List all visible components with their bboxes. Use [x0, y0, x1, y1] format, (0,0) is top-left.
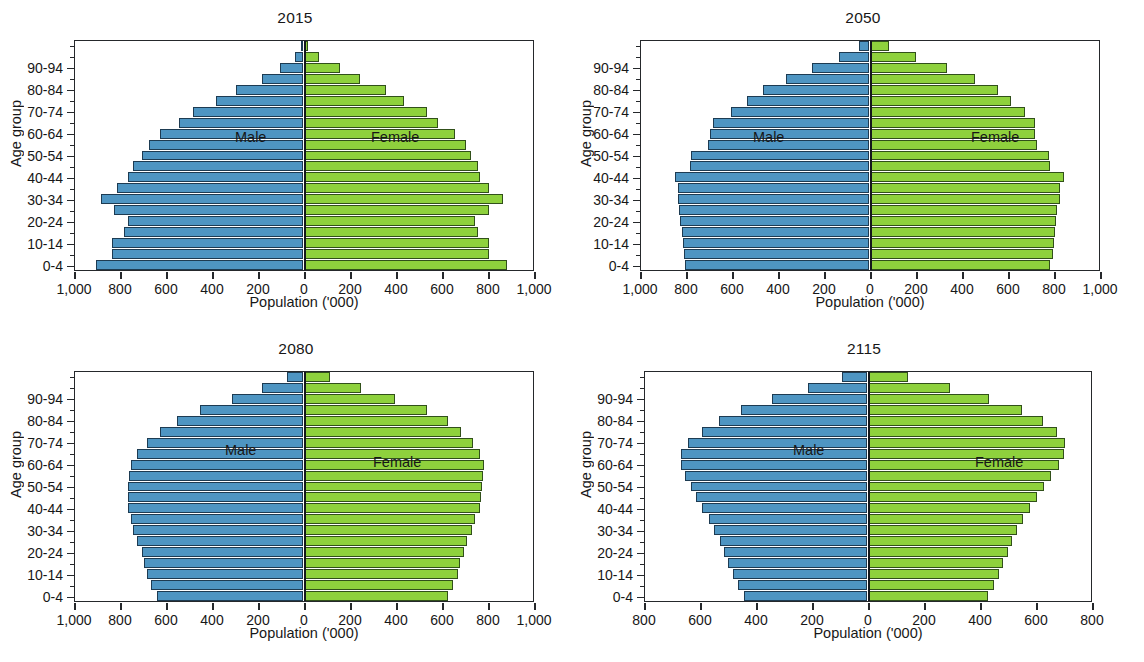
y-axis-tick	[640, 377, 645, 378]
female-bar	[305, 558, 460, 568]
y-axis-tick-label: 10-14	[572, 567, 633, 583]
y-axis-tick	[67, 399, 75, 400]
female-bar	[305, 372, 330, 382]
male-bar	[133, 161, 303, 171]
male-bar	[696, 492, 867, 502]
female-bar	[305, 405, 427, 415]
y-axis-tick-label: 40-44	[572, 501, 633, 517]
y-axis-tick-label: 20-24	[572, 214, 629, 230]
male-bar	[681, 449, 867, 459]
y-axis-tick	[637, 421, 645, 422]
female-bar	[305, 249, 489, 259]
y-axis-tick	[70, 167, 75, 168]
female-bar	[869, 536, 1012, 546]
male-bar	[301, 41, 303, 51]
x-axis-tick-label: 200	[338, 281, 361, 297]
y-axis-tick	[67, 200, 75, 201]
female-bar	[869, 438, 1065, 448]
male-bar	[131, 460, 304, 470]
x-axis-tick	[74, 603, 75, 610]
female-bar	[305, 216, 475, 226]
y-axis-tick	[633, 90, 641, 91]
male-bar	[733, 569, 867, 579]
female-bar	[305, 63, 340, 73]
y-axis-tick	[637, 509, 645, 510]
zero-axis-line	[868, 372, 870, 601]
female-bar	[305, 514, 475, 524]
x-axis-tick	[534, 603, 535, 610]
panel-title-2080: 2080	[0, 340, 572, 358]
male-bar	[702, 503, 867, 513]
y-axis-tick-label: 40-44	[572, 170, 629, 186]
x-axis-tick-label: 400	[200, 281, 223, 297]
male-bar	[262, 74, 303, 84]
female-bar	[869, 394, 989, 404]
x-axis-tick-label: 400	[950, 281, 973, 297]
male-bar	[147, 569, 303, 579]
x-axis-tick	[980, 603, 981, 610]
y-axis-tick	[640, 432, 645, 433]
x-axis-tick	[1036, 603, 1037, 610]
male-bar	[702, 427, 867, 437]
y-axis-tick-label: 90-94	[572, 60, 629, 76]
male-bar	[720, 536, 867, 546]
y-axis-tick	[67, 266, 75, 267]
y-axis-tick	[70, 145, 75, 146]
female-bar	[305, 569, 458, 579]
x-axis-tick-label: 200	[912, 612, 935, 628]
male-bar	[131, 514, 304, 524]
y-axis-tick	[633, 266, 641, 267]
y-axis-tick	[636, 79, 641, 80]
x-axis-tick	[74, 272, 75, 279]
y-axis-tick-label: 0-4	[572, 589, 633, 605]
y-axis-tick	[70, 255, 75, 256]
male-bar	[117, 183, 303, 193]
male-bar	[719, 416, 867, 426]
x-axis-tick	[258, 603, 259, 610]
female-bar	[871, 151, 1049, 161]
male-bar	[684, 249, 869, 259]
y-axis-tick-label: 20-24	[0, 545, 63, 561]
female-bar	[871, 107, 1025, 117]
y-axis-tick	[70, 123, 75, 124]
female-bar	[305, 161, 478, 171]
plot-area-2115: MaleFemale	[644, 371, 1092, 602]
panel-2050: 2050 Age group Population ('000) MaleFem…	[572, 0, 1144, 331]
female-bar	[305, 536, 467, 546]
male-bar	[683, 238, 869, 248]
y-axis-tick-label: 60-64	[0, 457, 63, 473]
x-axis-tick-label: 800	[476, 281, 499, 297]
female-bar	[305, 580, 453, 590]
x-axis-tick	[640, 272, 641, 279]
x-axis-tick	[778, 272, 779, 279]
female-bar	[871, 161, 1050, 171]
y-axis-tick	[67, 575, 75, 576]
y-axis-tick	[633, 178, 641, 179]
x-axis-tick	[700, 603, 701, 610]
panel-2015: 2015 Age group Population ('000) MaleFem…	[0, 0, 572, 331]
male-bar	[763, 85, 869, 95]
y-axis-tick	[633, 68, 641, 69]
female-bar	[871, 216, 1056, 226]
male-bar	[675, 172, 869, 182]
x-axis-tick	[442, 603, 443, 610]
y-axis-tick	[67, 597, 75, 598]
y-axis-tick	[637, 553, 645, 554]
female-bar	[305, 438, 473, 448]
y-axis-tick	[67, 531, 75, 532]
x-axis-tick	[120, 272, 121, 279]
male-series-label: Male	[235, 129, 266, 145]
male-bar	[786, 74, 869, 84]
x-axis-tick	[686, 272, 687, 279]
y-axis-tick	[70, 189, 75, 190]
male-bar	[859, 41, 869, 51]
y-axis-tick	[640, 542, 645, 543]
plot-area-2015: MaleFemale	[74, 40, 534, 271]
female-bar	[869, 525, 1017, 535]
female-bar	[871, 183, 1060, 193]
y-axis-tick-label: 30-34	[0, 192, 63, 208]
female-bar	[869, 405, 1022, 415]
x-axis-tick-label: 600	[430, 612, 453, 628]
x-axis-tick-label: 800	[108, 281, 131, 297]
y-axis-tick-label: 30-34	[0, 523, 63, 539]
